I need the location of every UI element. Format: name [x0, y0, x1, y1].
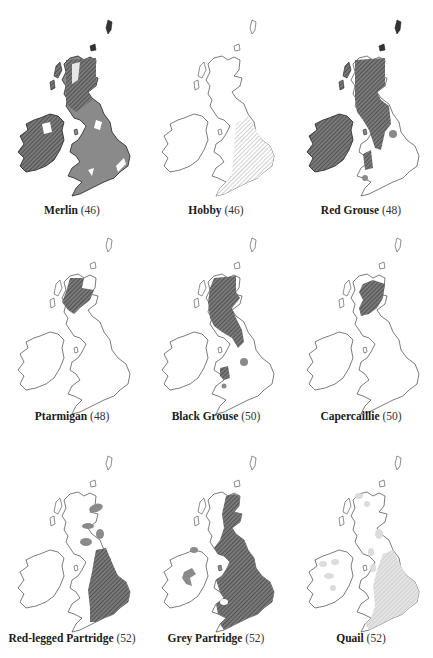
species-name: Red Grouse [321, 204, 379, 216]
species-number: (50) [241, 410, 260, 422]
red-legged-partridge-distribution-map [0, 436, 144, 636]
panel-black-grouse: Black Grouse (50) [144, 218, 288, 436]
red-grouse-distribution-map [289, 0, 433, 200]
capercaillie-distribution-map [289, 218, 433, 418]
species-number: (46) [224, 204, 243, 216]
quail-distribution-map [289, 436, 433, 636]
species-name: Ptarmigan [35, 410, 87, 422]
species-distribution-map-grid: Merlin (46) Hobby (46) [0, 0, 433, 658]
caption-red-legged-partridge: Red-legged Partridge (52) [0, 632, 144, 644]
species-number: (52) [367, 632, 386, 644]
panel-quail: Quail (52) [289, 436, 433, 654]
panel-hobby: Hobby (46) [144, 0, 288, 218]
caption-black-grouse: Black Grouse (50) [144, 410, 288, 422]
species-number: (46) [81, 204, 100, 216]
species-name: Black Grouse [172, 410, 239, 422]
species-number: (48) [90, 410, 109, 422]
species-name: Merlin [44, 204, 78, 216]
species-name: Grey Partridge [168, 632, 243, 644]
species-name: Hobby [188, 204, 221, 216]
species-name: Quail [336, 632, 363, 644]
panel-capercaillie: Capercaillie (50) [289, 218, 433, 436]
species-name: Red-legged Partridge [8, 632, 113, 644]
hobby-distribution-map [144, 0, 288, 200]
species-number: (48) [382, 204, 401, 216]
caption-quail: Quail (52) [289, 632, 433, 644]
caption-hobby: Hobby (46) [144, 204, 288, 216]
caption-capercaillie: Capercaillie (50) [289, 410, 433, 422]
species-name: Capercaillie [320, 410, 379, 422]
grey-partridge-distribution-map [144, 436, 288, 636]
panel-red-grouse: Red Grouse (48) [289, 0, 433, 218]
caption-ptarmigan: Ptarmigan (48) [0, 410, 144, 422]
caption-grey-partridge: Grey Partridge (52) [144, 632, 288, 644]
species-number: (50) [382, 410, 401, 422]
merlin-distribution-map [0, 0, 144, 200]
panel-red-legged-partridge: Red-legged Partridge (52) [0, 436, 144, 654]
species-number: (52) [116, 632, 135, 644]
panel-grey-partridge: Grey Partridge (52) [144, 436, 288, 654]
species-number: (52) [245, 632, 264, 644]
ptarmigan-distribution-map [0, 218, 144, 418]
panel-ptarmigan: Ptarmigan (48) [0, 218, 144, 436]
black-grouse-distribution-map [144, 218, 288, 418]
caption-merlin: Merlin (46) [0, 204, 144, 216]
panel-merlin: Merlin (46) [0, 0, 144, 218]
caption-red-grouse: Red Grouse (48) [289, 204, 433, 216]
